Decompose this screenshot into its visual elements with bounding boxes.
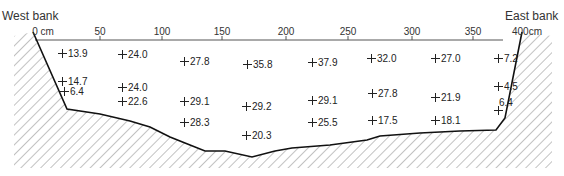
measurement-point: 25.5 (308, 118, 337, 128)
river-cross-section-diagram: West bank East bank 0 cm 50 100 150 200 … (0, 0, 564, 176)
plus-marker-icon (431, 54, 440, 63)
plus-marker-icon (58, 77, 67, 86)
measurement-point-east-low (494, 106, 504, 116)
measurement-point: 27.8 (368, 89, 397, 99)
measurement-point: 24.0 (118, 50, 147, 60)
measurement-point: 35.8 (243, 60, 272, 70)
measurement-point: 20.3 (242, 131, 271, 141)
measurement-point: 22.6 (118, 97, 147, 107)
measurement-point: 27.8 (180, 57, 209, 67)
measurement-point: 27.0 (431, 54, 460, 64)
tick-label: 0 cm (32, 26, 54, 37)
west-bank-label: West bank (2, 9, 58, 23)
tick-label: 250 (340, 26, 357, 37)
plus-marker-icon (431, 93, 440, 102)
measurement-point: 18.1 (431, 116, 460, 126)
plus-marker-icon (308, 96, 317, 105)
measurement-point: 17.5 (368, 116, 397, 126)
plus-marker-icon (242, 131, 251, 140)
measurement-point: 37.9 (308, 58, 337, 68)
tick-label: 350 (465, 26, 482, 37)
plus-marker-icon (243, 60, 252, 69)
plus-marker-icon (118, 83, 127, 92)
measurement-point: 7.2 (494, 54, 518, 64)
east-bank-label: East bank (505, 9, 558, 23)
plus-marker-icon (308, 58, 317, 67)
plus-marker-icon (58, 49, 67, 58)
plus-marker-icon (367, 54, 376, 63)
plus-marker-icon (368, 89, 377, 98)
tick-label: 50 (94, 26, 105, 37)
tick-label: 100 (154, 26, 171, 37)
plus-marker-icon (431, 116, 440, 125)
tick-label: 300 (404, 26, 421, 37)
measurement-point: 32.0 (367, 54, 396, 64)
measurement-point: 24.0 (118, 83, 147, 93)
measurement-point: 21.9 (431, 93, 460, 103)
plus-marker-icon (242, 102, 251, 111)
plus-marker-icon (368, 116, 377, 125)
plus-marker-icon (60, 87, 69, 96)
measurement-point: 29.1 (180, 97, 209, 107)
plus-marker-icon (118, 97, 127, 106)
tick-label: 150 (214, 26, 231, 37)
measurement-point: 28.3 (180, 118, 209, 128)
plus-marker-icon (308, 118, 317, 127)
tick-label: 400cm (512, 26, 542, 37)
measurement-point: 13.9 (58, 49, 87, 59)
plus-marker-icon (494, 82, 503, 91)
plus-marker-icon (118, 50, 127, 59)
tick-label: 200 (278, 26, 295, 37)
measurement-point: 6.4 (60, 87, 84, 97)
measurement-point: 29.2 (242, 102, 271, 112)
measurement-point: 29.1 (308, 96, 337, 106)
plus-marker-icon (494, 106, 503, 115)
plus-marker-icon (180, 118, 189, 127)
plus-marker-icon (180, 57, 189, 66)
measurement-point: 4.5 (494, 82, 518, 92)
plus-marker-icon (180, 97, 189, 106)
plus-marker-icon (494, 54, 503, 63)
